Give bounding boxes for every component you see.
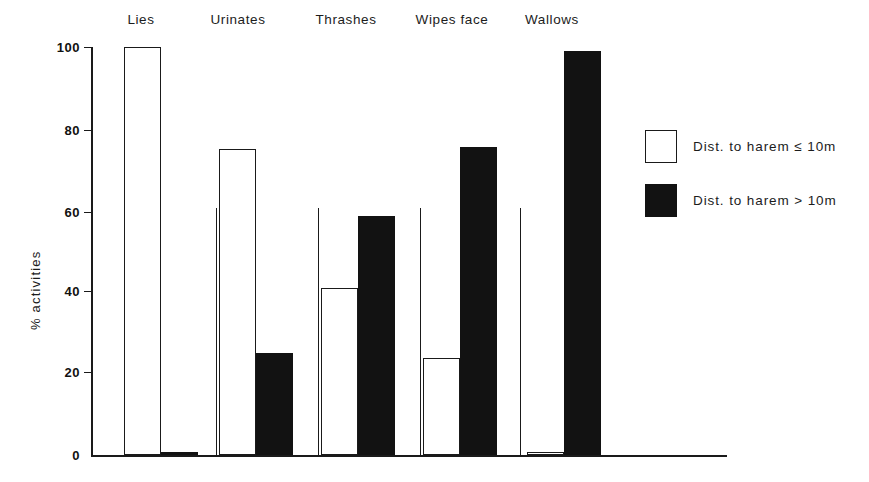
bar-chart-figure: % activities 100 80 60 40 20 0 Lies Urin…: [0, 0, 869, 482]
legend-label-near: Dist. to harem ≤ 10m: [693, 139, 836, 154]
legend-entry-far: Dist. to harem > 10m: [645, 184, 837, 217]
bar-lies-far: [161, 452, 198, 455]
legend-entry-near: Dist. to harem ≤ 10m: [645, 130, 836, 163]
bar-urinates-far: [256, 353, 293, 455]
bar-thrashes-near: [321, 288, 358, 455]
category-label-wipes-face: Wipes face: [416, 12, 489, 27]
y-axis-label: % activities: [28, 251, 43, 330]
bar-thrashes-far: [358, 216, 395, 455]
legend-swatch-filled-icon: [645, 184, 677, 217]
bar-wallows-near: [527, 452, 564, 455]
category-label-wallows: Wallows: [525, 12, 579, 27]
legend-swatch-open-icon: [645, 130, 677, 163]
y-tick-label-0: 0: [42, 448, 80, 463]
legend-label-far: Dist. to harem > 10m: [693, 193, 837, 208]
category-label-urinates: Urinates: [210, 12, 265, 27]
y-tick-label-40: 40: [42, 284, 80, 299]
y-tick-label-60: 60: [42, 205, 80, 220]
bar-wallows-far: [564, 51, 601, 455]
bar-wipes-face-near: [423, 358, 460, 455]
group-separator-2: [216, 208, 217, 455]
y-tick-label-80: 80: [42, 123, 80, 138]
bar-wipes-face-far: [460, 147, 497, 455]
bar-lies-near: [124, 47, 161, 455]
group-separator-5: [520, 208, 521, 455]
category-label-thrashes: Thrashes: [315, 12, 376, 27]
y-tick-label-100: 100: [42, 40, 80, 55]
group-separator-3: [318, 208, 319, 455]
x-axis-line: [91, 455, 727, 457]
group-separator-4: [420, 208, 421, 455]
y-axis-line: [91, 47, 93, 456]
y-tick-label-20: 20: [42, 365, 80, 380]
category-label-lies: Lies: [127, 12, 154, 27]
bar-urinates-near: [219, 149, 256, 455]
